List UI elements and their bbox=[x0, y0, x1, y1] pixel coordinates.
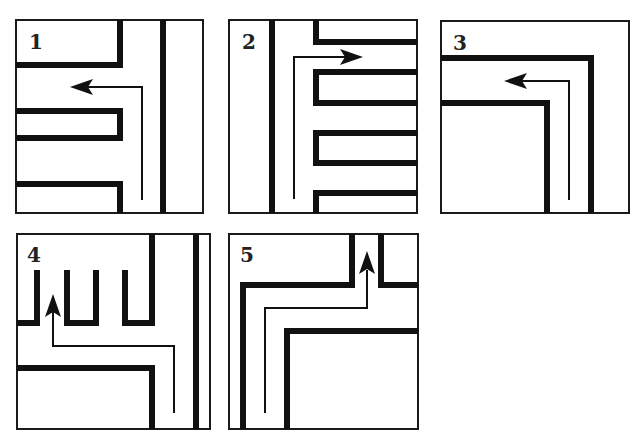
panel-2-label: 2 bbox=[242, 30, 256, 54]
corridor-diagram-figure: 1 2 3 4 bbox=[0, 0, 644, 443]
panel-5: 5 bbox=[229, 234, 418, 429]
panel-2-frame bbox=[229, 20, 417, 213]
panel-4-label: 4 bbox=[27, 243, 41, 267]
panel-3-label: 3 bbox=[453, 31, 467, 55]
panel-1-label: 1 bbox=[29, 30, 43, 54]
panel-3-frame bbox=[441, 21, 629, 213]
panel-4: 4 bbox=[17, 234, 210, 429]
panel-5-label: 5 bbox=[240, 243, 254, 267]
panel-1: 1 bbox=[16, 20, 203, 213]
panel-3: 3 bbox=[441, 21, 629, 213]
panel-2: 2 bbox=[229, 20, 417, 213]
panel-4-frame bbox=[17, 234, 210, 429]
